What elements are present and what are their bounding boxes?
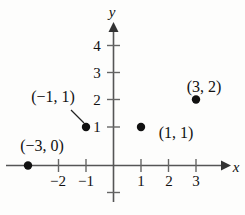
point-label-neg1-1: (−1, 1) <box>31 89 75 105</box>
point-label-neg3-0: (−3, 0) <box>20 138 64 154</box>
coordinate-plane-figure: y x 4 3 2 1 −2 −1 1 2 3 (−3, 0) (−1, 1) … <box>0 0 245 215</box>
point-label-3-2: (3, 2) <box>187 79 222 95</box>
x-axis-arrowhead <box>221 161 231 171</box>
plot-canvas <box>0 0 245 215</box>
x-tick-label-3: 3 <box>192 174 200 189</box>
data-point-3-2 <box>192 95 200 103</box>
x-tick-label--2: −2 <box>50 174 66 189</box>
x-tick-label-1: 1 <box>137 174 145 189</box>
y-axis-name-label: y <box>109 5 116 20</box>
x-axis <box>6 159 231 172</box>
data-point-1-1 <box>137 123 145 131</box>
x-axis-name-label: x <box>233 160 240 175</box>
x-tick-label-2: 2 <box>165 174 173 189</box>
y-tick-label-4: 4 <box>93 39 101 54</box>
y-tick-label-2: 2 <box>93 93 101 108</box>
data-point-neg1-1 <box>82 123 90 131</box>
data-point-neg3-0 <box>24 161 32 169</box>
y-tick-label-3: 3 <box>93 66 101 81</box>
y-axis <box>107 22 120 202</box>
x-tick-label--1: −1 <box>78 174 94 189</box>
y-axis-arrowhead <box>109 22 119 32</box>
point-label-1-1: (1, 1) <box>159 125 194 141</box>
y-tick-label-1: 1 <box>93 120 101 135</box>
leader-line-neg1-1 <box>71 110 84 123</box>
